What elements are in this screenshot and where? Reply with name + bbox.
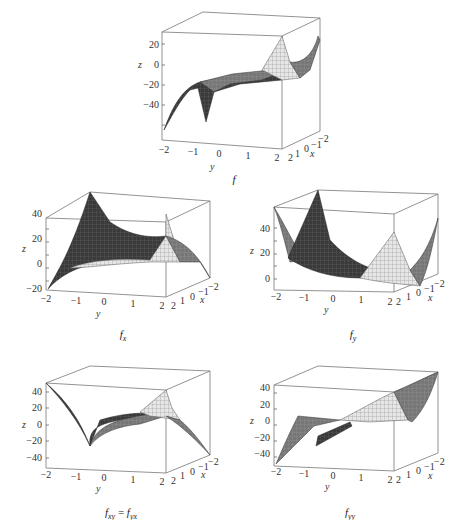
plot-fyy: 40 20 0 −20 −40 z −2 −1 0 1 2 y 2 1 0 −1…: [249, 366, 445, 520]
y-tick: −2: [271, 291, 282, 302]
y-axis-label: y: [323, 304, 329, 315]
x-axis: 2 1 0 −1 −2 x: [171, 281, 219, 311]
z-tick: 20: [149, 39, 159, 50]
z-tick: −40: [26, 452, 42, 463]
y-axis-label: y: [209, 161, 215, 172]
y-tick: 0: [331, 470, 336, 481]
z-tick: 40: [32, 208, 42, 219]
y-tick: −1: [71, 471, 82, 482]
caption: fx: [120, 328, 127, 343]
x-axis: 2 1 0 −1 −2 x: [171, 456, 219, 486]
z-tick: 20: [32, 402, 42, 413]
x-tick: 0: [416, 287, 421, 298]
y-tick: 2: [388, 296, 393, 307]
x-tick: 0: [304, 143, 309, 154]
z-tick: −40: [254, 448, 270, 459]
x-tick: 1: [295, 148, 300, 159]
x-axis-label: x: [427, 292, 433, 303]
x-tick: 2: [171, 300, 176, 311]
z-axis-label: z: [249, 415, 254, 426]
y-tick: 2: [160, 300, 165, 311]
y-axis-label: y: [95, 483, 101, 494]
z-tick: −20: [254, 432, 270, 443]
x-tick: −2: [434, 456, 445, 467]
figure: 20 0 −20 −40 z −2 −1 0 1 2 y 2 1 0 −1 −2…: [0, 0, 468, 520]
z-tick: 0: [265, 273, 270, 284]
y-tick: −1: [299, 292, 310, 303]
y-tick: 2: [160, 476, 165, 487]
z-tick: −20: [26, 283, 42, 294]
x-tick: 0: [190, 466, 195, 477]
x-tick: −2: [318, 133, 329, 144]
plot-fxy: 40 20 0 −20 −40 z −2 −1 0 1 2 y 2 1 0 −1…: [21, 366, 219, 520]
plot-fy: 40 20 0 z −2 −1 0 1 2 y 2 1 0 −1 −2 x fy: [249, 190, 445, 343]
x-tick: 2: [396, 296, 401, 307]
y-tick: 0: [217, 148, 222, 159]
y-tick: 1: [246, 150, 251, 161]
z-tick: 20: [260, 399, 270, 410]
y-tick: 0: [102, 472, 107, 483]
y-axis-label: y: [95, 308, 101, 319]
caption: f: [232, 173, 237, 185]
y-tick: −1: [188, 146, 199, 157]
surface: [166, 416, 210, 455]
caption: fxy = fyx: [105, 506, 138, 520]
caption: fyy: [345, 506, 356, 520]
y-axis: −2 −1 0 1 2 y: [271, 291, 393, 315]
y-tick: 1: [131, 298, 136, 309]
z-axis: 40 20 0 z: [249, 223, 277, 284]
y-axis: −2 −1 0 1 2 y: [159, 144, 280, 172]
z-axis: 40 20 0 −20 −40 z: [249, 382, 277, 459]
y-tick: 1: [359, 294, 364, 305]
y-tick: 2: [275, 152, 280, 163]
y-tick: 0: [331, 293, 336, 304]
z-tick: 20: [32, 233, 42, 244]
x-tick: −2: [434, 278, 445, 289]
z-axis: 20 0 −20 −40 z: [137, 39, 165, 125]
x-tick: 2: [288, 152, 293, 163]
y-tick: 0: [102, 296, 107, 307]
x-tick: 1: [180, 470, 185, 481]
y-tick: 2: [388, 474, 393, 485]
surface: [90, 414, 166, 446]
x-tick: 2: [396, 474, 401, 485]
x-tick: 0: [190, 291, 195, 302]
y-tick: 1: [359, 472, 364, 483]
z-axis-label: z: [249, 245, 254, 256]
y-tick: −1: [299, 468, 310, 479]
plot-fx: 40 20 0 −20 z −2 −1 0 1 2 y 2 1 0 −1 −2 …: [21, 192, 219, 343]
x-axis-label: x: [309, 148, 315, 159]
surface: [316, 422, 352, 446]
caption: fy: [350, 328, 357, 343]
z-tick: 20: [260, 247, 270, 258]
surface: [276, 416, 340, 464]
y-tick: −2: [41, 469, 52, 480]
y-tick: −1: [71, 295, 82, 306]
z-tick: −20: [143, 79, 159, 90]
y-tick: 1: [131, 474, 136, 485]
z-tick: 40: [32, 386, 42, 397]
z-tick: 0: [37, 258, 42, 269]
x-tick: 1: [406, 469, 411, 480]
surface: [360, 232, 420, 286]
x-tick: 0: [416, 465, 421, 476]
z-tick: 40: [260, 223, 270, 234]
x-tick: −2: [208, 456, 219, 467]
z-tick: −20: [26, 435, 42, 446]
x-axis-label: x: [427, 470, 433, 481]
y-axis: −2 −1 0 1 2 y: [41, 469, 165, 494]
z-tick: 0: [154, 59, 159, 70]
z-axis-label: z: [137, 59, 142, 70]
x-tick: 2: [171, 475, 176, 486]
y-tick: −2: [271, 466, 282, 477]
x-tick: 1: [406, 291, 411, 302]
z-tick: −40: [143, 99, 159, 110]
y-axis-label: y: [324, 481, 330, 492]
z-axis: 40 20 0 −20 −40 z: [21, 386, 49, 463]
x-axis-label: x: [200, 469, 206, 480]
plot-f: 20 0 −20 −40 z −2 −1 0 1 2 y 2 1 0 −1 −2…: [137, 12, 329, 185]
x-tick: −2: [208, 281, 219, 292]
x-axis-label: x: [199, 294, 205, 305]
y-axis: −2 −1 0 1 2 y: [41, 293, 165, 319]
z-tick: 0: [265, 415, 270, 426]
